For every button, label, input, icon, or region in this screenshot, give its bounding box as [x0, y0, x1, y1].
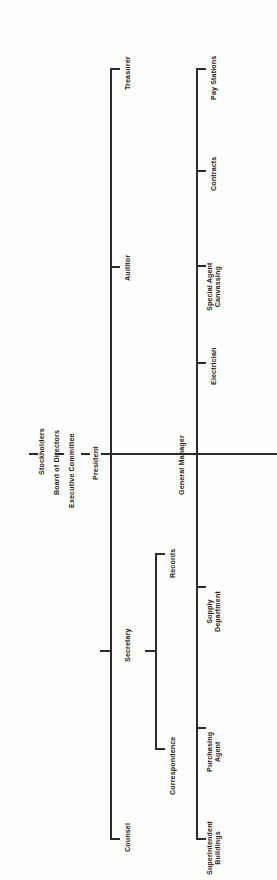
president-spine-lower	[110, 453, 112, 838]
node-president: President	[92, 446, 100, 480]
node-electrician: Electrician	[210, 347, 218, 385]
node-supply-department: Supply Department	[206, 591, 222, 632]
node-auditor: Auditor	[124, 255, 132, 281]
tick-supply-department	[196, 586, 206, 588]
node-special-agent-canvassing: Special Agent Canvassing	[206, 262, 222, 311]
node-treasurer: Treasurer	[124, 56, 132, 90]
node-contracts: Contracts	[210, 157, 218, 191]
node-correspondence: Correspondence	[169, 737, 177, 795]
node-general-manager: General Manager	[178, 435, 186, 495]
main-horizontal-spine	[101, 453, 277, 455]
org-chart: Stockholders Board of Directors Executiv…	[0, 0, 277, 880]
node-records: Records	[169, 549, 177, 578]
node-purchasing-agent: Purchasing Agent	[206, 732, 222, 772]
node-stockholders: Stockholders	[38, 428, 46, 475]
connector-board-executive	[55, 453, 64, 455]
tick-contracts	[196, 170, 206, 172]
connector-executive-president	[81, 453, 90, 455]
node-superintendent-buildings: Superintendent Buildings	[206, 821, 222, 875]
tick-correspondence	[155, 748, 165, 750]
tick-superintendent-buildings	[196, 838, 206, 840]
general-manager-spine-lower	[196, 453, 198, 838]
node-pay-stations: Pay Stations	[210, 56, 218, 100]
node-counsel: Counsel	[124, 823, 132, 852]
connector-stockholders-board	[29, 453, 38, 455]
president-spine-upper	[110, 68, 112, 453]
node-board-of-directors: Board of Directors	[53, 430, 61, 495]
tick-secretary	[100, 650, 110, 652]
tick-counsel	[110, 838, 120, 840]
secretary-subspine	[155, 553, 157, 749]
tick-records	[155, 553, 165, 555]
tick-treasurer	[110, 68, 120, 70]
tick-special-agent-canvassing	[196, 265, 206, 267]
node-executive-committee: Executive Committee	[68, 433, 76, 508]
tick-pay-stations	[196, 68, 206, 70]
tick-auditor	[110, 266, 120, 268]
tick-electrician	[196, 362, 206, 364]
node-secretary: Secretary	[124, 628, 132, 662]
general-manager-spine-upper	[196, 68, 198, 453]
tick-purchasing-agent	[196, 727, 206, 729]
tick-secretary-branch	[145, 650, 155, 652]
